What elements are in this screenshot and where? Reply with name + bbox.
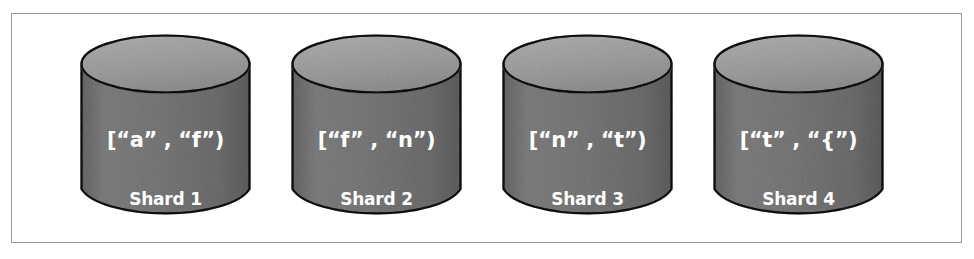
shard-item[interactable]: [“n” , “t”) Shard 3 bbox=[501, 33, 674, 220]
database-cylinder-icon bbox=[290, 33, 463, 220]
shard-item[interactable]: [“t” , “{”) Shard 4 bbox=[712, 33, 885, 220]
figure-frame: [“a” , “f”) Shard 1 [“f” , “n”) Shard 2 … bbox=[11, 13, 962, 243]
shard-item[interactable]: [“f” , “n”) Shard 2 bbox=[290, 33, 463, 220]
database-cylinder-icon bbox=[79, 33, 252, 220]
database-cylinder-icon bbox=[712, 33, 885, 220]
shard-item[interactable]: [“a” , “f”) Shard 1 bbox=[79, 33, 252, 220]
database-cylinder-icon bbox=[501, 33, 674, 220]
shard-list: [“a” , “f”) Shard 1 [“f” , “n”) Shard 2 … bbox=[12, 14, 961, 242]
